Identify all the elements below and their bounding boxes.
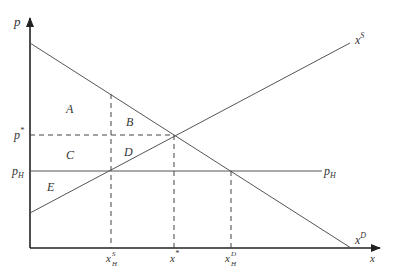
- region-b-label: B: [126, 115, 134, 129]
- region-e-label: E: [46, 180, 55, 194]
- equilibrium-price-label: p*: [13, 126, 24, 142]
- demand-curve-label: xD: [354, 231, 366, 247]
- x-axis-label: x: [369, 252, 375, 264]
- region-a-label: A: [65, 102, 74, 116]
- price-floor-label: pH: [323, 164, 337, 180]
- demand-quantity-label: xDH: [224, 250, 237, 268]
- supply-curve-label: xS: [354, 31, 364, 47]
- supply-demand-diagram: p x xS xD pH p* pH xSH x* xDH A B C D E: [0, 0, 393, 277]
- y-axis-label: p: [13, 14, 21, 29]
- demand-curve: [30, 43, 351, 248]
- region-c-label: C: [66, 148, 75, 162]
- equilibrium-quantity-label: x*: [169, 249, 179, 264]
- region-d-label: D: [123, 145, 133, 159]
- supply-curve: [30, 43, 350, 213]
- high-price-label: pH: [11, 164, 25, 180]
- supply-quantity-label: xSH: [105, 250, 118, 268]
